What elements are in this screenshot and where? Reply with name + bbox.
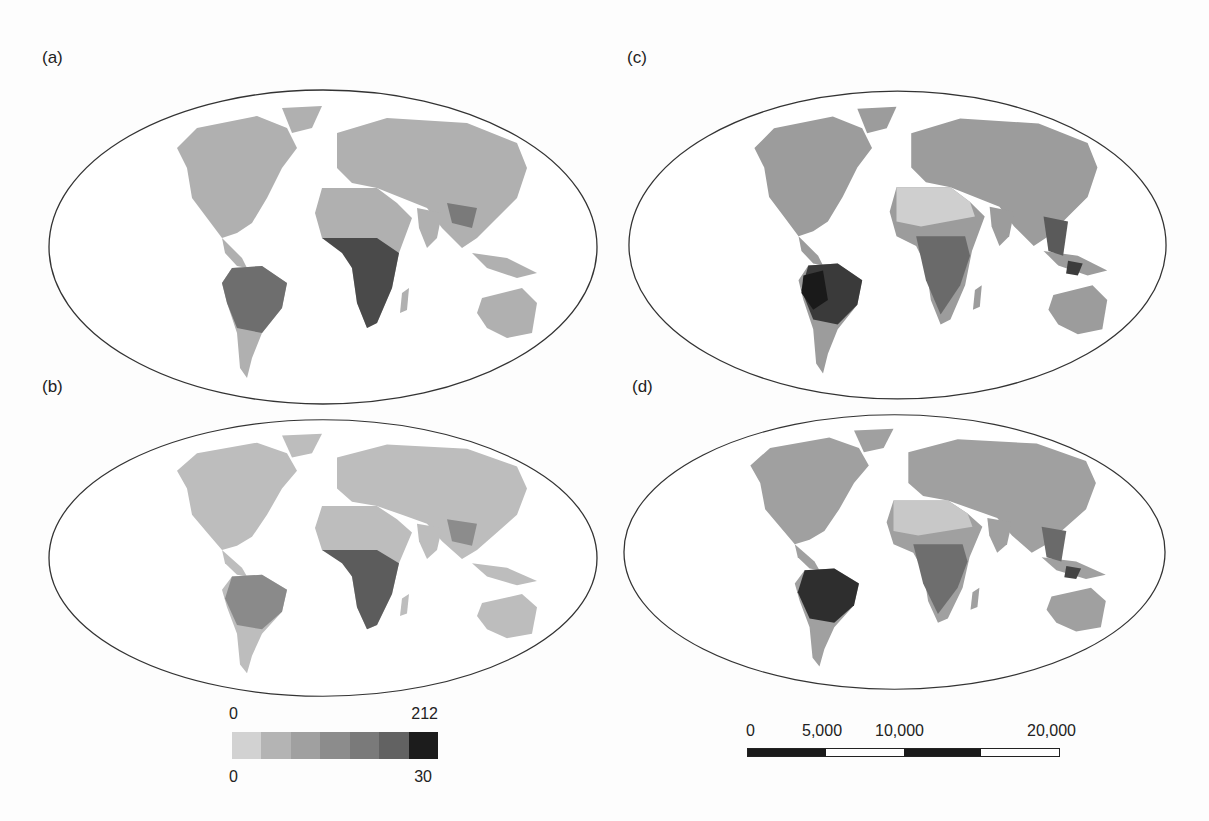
panel-label-c: (c) xyxy=(627,48,647,68)
legend-swatch-6 xyxy=(409,732,438,759)
world-map-d xyxy=(622,413,1167,691)
legend-swatch-2 xyxy=(291,732,320,759)
legend-swatch-0 xyxy=(232,732,261,759)
scale-label-10000: 10,000 xyxy=(875,722,924,740)
color-ramp-legend: 0 212 0 30 xyxy=(232,705,442,790)
world-map-b xyxy=(47,418,599,698)
scale-segment-2 xyxy=(904,749,982,756)
panel-label-d: (d) xyxy=(632,377,653,397)
legend-swatch-3 xyxy=(320,732,349,759)
world-map-c xyxy=(627,86,1168,404)
scale-label-0: 0 xyxy=(746,722,755,740)
legend-bottom-max: 30 xyxy=(414,768,432,786)
legend-top-max: 212 xyxy=(411,705,438,723)
scale-bar-segments xyxy=(747,748,1060,757)
legend-top-min: 0 xyxy=(229,705,238,723)
scale-segment-0 xyxy=(748,749,826,756)
panel-label-b: (b) xyxy=(42,377,63,397)
scale-segment-3 xyxy=(981,749,1059,756)
legend-ramp xyxy=(232,732,438,759)
scale-label-20000: 20,000 xyxy=(1027,722,1076,740)
legend-bottom-min: 0 xyxy=(229,768,238,786)
legend-swatch-4 xyxy=(350,732,379,759)
legend-swatch-1 xyxy=(261,732,290,759)
panel-label-a: (a) xyxy=(42,48,63,68)
scale-segment-1 xyxy=(826,749,904,756)
world-map-a xyxy=(47,88,599,406)
scale-bar: 0 5,000 10,000 20,000 xyxy=(747,722,1067,762)
legend-swatch-5 xyxy=(379,732,408,759)
scale-label-5000: 5,000 xyxy=(802,722,842,740)
